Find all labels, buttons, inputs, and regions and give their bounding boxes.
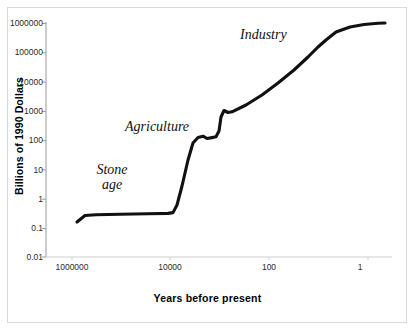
chart-svg bbox=[0, 0, 415, 331]
x-tick-100: 100 bbox=[229, 262, 309, 273]
x-tick-label: 10000 bbox=[130, 262, 210, 272]
x-tick-label: 1000000 bbox=[32, 262, 112, 272]
x-tick-label: 100 bbox=[229, 262, 309, 272]
x-tick-1: 1 bbox=[320, 262, 400, 273]
y-tick-label: 1000000 bbox=[10, 19, 43, 28]
y-tick-label: 0.01 bbox=[26, 253, 43, 262]
chart-page: 1000000 100000 10000 1000 100 10 1 0.1 0… bbox=[0, 0, 415, 331]
y-tick-label: 1 bbox=[38, 195, 43, 204]
y-tick-label: 0.1 bbox=[31, 224, 43, 233]
y-tick-label: 100 bbox=[29, 136, 43, 145]
x-axis-title: Years before present bbox=[0, 292, 415, 304]
y-tick-1000000: 1000000 bbox=[0, 19, 43, 28]
annotation-stone-age: Stone age bbox=[88, 163, 136, 192]
y-tick-0.01: 0.01 bbox=[0, 253, 43, 262]
annotation-agriculture: Agriculture bbox=[125, 120, 189, 135]
annotation-industry: Industry bbox=[240, 28, 287, 43]
x-tick-1000000: 1000000 bbox=[32, 262, 112, 273]
y-axis-title-container: Billions of 1990 Dollars bbox=[8, 40, 30, 240]
y-tick-label: 10 bbox=[34, 166, 43, 175]
x-tick-10000: 10000 bbox=[130, 262, 210, 273]
x-tick-label: 1 bbox=[320, 262, 400, 272]
y-axis-title: Billions of 1990 Dollars bbox=[13, 36, 25, 236]
chart-plot-area: 1000000 100000 10000 1000 100 10 1 0.1 0… bbox=[0, 0, 415, 331]
